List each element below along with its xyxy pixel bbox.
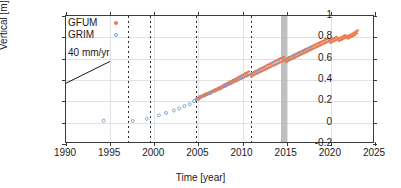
y-axis-tick-label: 0: [272, 117, 332, 127]
x-axis-tick: [375, 142, 376, 146]
y-axis-tick-label: 0.2: [272, 95, 332, 105]
data-point: [157, 114, 160, 117]
x-axis-title: Time [year]: [0, 172, 401, 183]
x-axis-tick-label: 2005: [186, 148, 208, 158]
y-axis-tick: [373, 101, 377, 102]
x-axis-tick-label: 2025: [363, 148, 385, 158]
data-point: [188, 103, 191, 106]
x-axis-tick-label: 2015: [275, 148, 297, 158]
y-axis-tick-label: 0.8: [272, 31, 332, 41]
data-point: [145, 117, 148, 120]
x-axis-tick: [243, 142, 244, 146]
data-point: [164, 111, 167, 114]
x-axis-tick: [198, 12, 199, 16]
y-axis-tick: [62, 37, 66, 38]
data-point: [131, 119, 134, 122]
x-axis-tick: [154, 12, 155, 16]
y-axis-tick: [62, 123, 66, 124]
data-point: [356, 29, 359, 32]
vertical-displacement-chart: Vertical [m] -0.200.20.40.60.81 19901995…: [0, 0, 401, 188]
y-axis-tick-label: 1: [272, 10, 332, 20]
y-axis-tick: [62, 101, 66, 102]
legend-label-gfum: GFUM: [68, 17, 110, 28]
data-point: [355, 32, 358, 35]
x-axis-tick-label: 2010: [230, 148, 252, 158]
legend-item-gfum: GFUM: [68, 17, 122, 28]
y-axis-tick: [373, 37, 377, 38]
legend: GFUM GRIM: [68, 17, 122, 41]
y-axis-tick: [62, 16, 66, 17]
data-point: [248, 70, 251, 73]
y-axis-tick: [373, 123, 377, 124]
x-axis-tick: [110, 142, 111, 146]
legend-marker-grim-icon: [110, 33, 122, 37]
x-axis-tick: [66, 142, 67, 146]
y-axis-tick-label: 0.6: [272, 53, 332, 63]
y-axis-tick: [373, 80, 377, 81]
data-point: [183, 105, 186, 108]
y-axis-title: Vertical [m]: [0, 1, 9, 50]
x-axis-tick: [375, 12, 376, 16]
data-point: [102, 119, 105, 122]
x-axis-tick-label: 2020: [319, 148, 341, 158]
legend-marker-gfum-icon: [110, 21, 122, 25]
x-axis-tick-label: 1990: [54, 148, 76, 158]
x-axis-tick: [243, 12, 244, 16]
legend-label-grim: GRIM: [68, 29, 110, 40]
legend-item-grim: GRIM: [68, 29, 122, 40]
slope-reference-line: [66, 61, 110, 83]
x-axis-tick-label: 1995: [98, 148, 120, 158]
data-point: [172, 109, 175, 112]
y-axis-tick-label: 0.4: [272, 74, 332, 84]
x-axis-tick: [154, 142, 155, 146]
x-axis-tick: [66, 12, 67, 16]
x-axis-tick-label: 2000: [142, 148, 164, 158]
x-axis-tick: [110, 12, 111, 16]
data-point: [178, 107, 181, 110]
x-axis-tick: [198, 142, 199, 146]
y-axis-tick: [373, 59, 377, 60]
y-axis-tick: [373, 16, 377, 17]
slope-annotation-line: [65, 55, 135, 100]
